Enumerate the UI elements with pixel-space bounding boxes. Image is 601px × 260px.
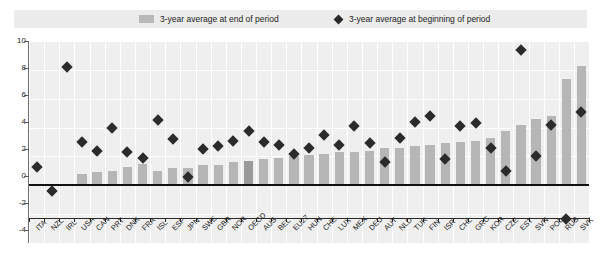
chart-figure: 3-year average at end of period 3-year a… <box>0 0 601 260</box>
x-axis-labels: ITANZLIRLUSACANPRTDNKFRAISLESPJPNSWEGBRN… <box>0 0 601 260</box>
x-tick-label-mex: MEX <box>351 214 369 232</box>
x-tick-label-usa: USA <box>79 215 96 232</box>
x-tick-label-tur: TUR <box>412 215 429 232</box>
x-tick-label-isl: ISL <box>155 218 169 232</box>
x-tick-label-ita: ITA <box>34 218 48 232</box>
x-tick-label-nor: NOR <box>230 214 248 232</box>
x-tick-label-irl: IRL <box>64 218 79 233</box>
x-tick-label-chl: CHL <box>457 215 474 232</box>
x-tick-label-nld: NLD <box>397 215 414 232</box>
x-tick-label-cze: CZE <box>503 215 520 232</box>
x-tick-label-jpn: JPN <box>185 216 201 232</box>
x-tick-label-bel: BEL <box>276 216 292 232</box>
x-tick-label-prt: PRT <box>109 215 126 232</box>
x-tick-label-lux: LUX <box>336 216 353 233</box>
x-tick-label-gbr: GBR <box>215 214 233 232</box>
x-tick-label-svk: SVK <box>578 215 595 232</box>
x-tick-label-svn: SVN <box>533 215 550 232</box>
x-tick-label-pol: POL <box>548 215 565 232</box>
x-tick-label-aut: AUT <box>382 215 399 232</box>
x-tick-label-kor: KOR <box>488 214 506 232</box>
x-tick-label-fin: FIN <box>427 217 442 232</box>
x-tick-label-rus: RUS <box>563 215 581 233</box>
x-tick-label-che: CHE <box>321 215 339 233</box>
x-tick-label-can: CAN <box>94 215 112 233</box>
x-tick-label-swe: SWE <box>200 214 218 232</box>
x-tick-label-isr: ISR <box>442 217 457 232</box>
x-tick-label-nzl: NZL <box>49 216 65 232</box>
x-tick-label-dnk: DNK <box>124 215 142 233</box>
x-tick-label-esp: ESP <box>170 215 187 232</box>
x-tick-label-grc: GRC <box>473 214 491 232</box>
x-tick-label-deu: DEU <box>367 215 385 233</box>
x-tick-label-est: EST <box>518 216 535 233</box>
x-tick-label-fra: FRA <box>140 215 157 232</box>
